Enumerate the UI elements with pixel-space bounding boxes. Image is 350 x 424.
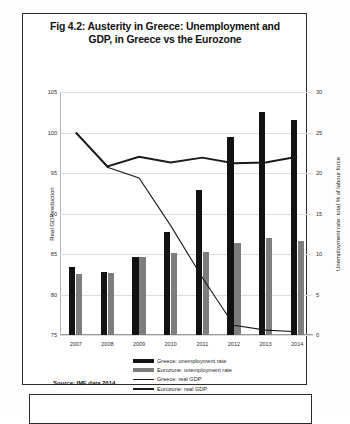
legend-label: Eurozone: unemployment rate <box>157 367 232 373</box>
legend-item: Eurozone: real GDP <box>133 384 232 393</box>
x-axis-tick: 2013 <box>259 341 271 347</box>
y-axis-left-tick: 85 <box>41 251 57 257</box>
source-note: Source: IMF data 2014 <box>53 380 115 386</box>
y-axis-left-tick: 95 <box>41 170 57 176</box>
line-series <box>76 133 297 167</box>
legend-line-swatch <box>133 388 154 390</box>
y-axis-left-title: Real GDP reduction <box>49 187 55 240</box>
gridline <box>60 335 313 336</box>
x-axis-tick: 2007 <box>70 341 82 347</box>
x-axis-tick: 2009 <box>133 341 145 347</box>
legend-label: Greece: unemployment rate <box>157 358 226 364</box>
legend-line-swatch <box>133 379 154 381</box>
y-axis-right-tick: 30 <box>316 89 332 95</box>
legend-label: Greece: real GDP <box>157 376 201 382</box>
x-axis-tick: 2012 <box>228 341 240 347</box>
y-axis-right-tick: 25 <box>316 130 332 136</box>
line-series-layer <box>60 92 313 335</box>
y-axis-left-tick: 100 <box>41 130 57 136</box>
legend-bar-swatch <box>133 359 154 363</box>
legend-bar-swatch <box>133 368 154 372</box>
x-axis-tick: 2010 <box>165 341 177 347</box>
y-axis-right-tick: 5 <box>316 292 332 298</box>
plot-area: 7580859095100105051015202530200720082009… <box>60 92 313 335</box>
y-axis-left-tick: 75 <box>41 332 57 338</box>
y-axis-right-title: Unemployment rate: total % of labour for… <box>335 156 341 270</box>
y-axis-left-tick: 80 <box>41 292 57 298</box>
x-axis-tick: 2014 <box>291 341 303 347</box>
y-axis-right-tick: 10 <box>316 251 332 257</box>
chart-title: Fig 4.2: Austerity in Greece: Unemployme… <box>37 20 293 46</box>
next-figure-box <box>29 394 312 424</box>
plot-inner: 7580859095100105051015202530200720082009… <box>60 92 313 335</box>
legend-item: Eurozone: unemployment rate <box>133 365 232 374</box>
y-axis-right-tick: 0 <box>316 332 332 338</box>
legend-item: Greece: unemployment rate <box>133 356 232 365</box>
x-axis-tick: 2008 <box>101 341 113 347</box>
y-axis-left-tick: 105 <box>41 89 57 95</box>
y-axis-right-tick: 20 <box>316 170 332 176</box>
x-axis-tick: 2011 <box>196 341 208 347</box>
y-axis-right-tick: 15 <box>316 211 332 217</box>
legend-label: Eurozone: real GDP <box>157 386 207 392</box>
figure-container: Fig 4.2: Austerity in Greece: Unemployme… <box>22 13 307 385</box>
chart-legend: Greece: unemployment rateEurozone: unemp… <box>133 356 232 394</box>
legend-item: Greece: real GDP <box>133 375 232 384</box>
